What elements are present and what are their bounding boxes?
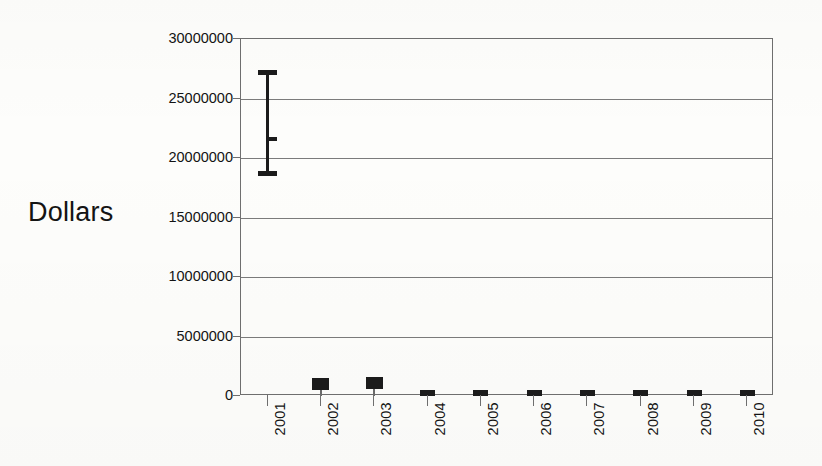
x-axis-tick-label: 2009 — [699, 402, 714, 435]
y-axis-tick-label: 30000000 — [83, 31, 233, 46]
y-axis-tick-label: 5000000 — [83, 328, 233, 343]
x-axis-tick-label: 2005 — [486, 402, 501, 435]
y-axis-tick-mark — [233, 217, 240, 218]
y-axis-tick-label: 10000000 — [83, 269, 233, 284]
y-axis-tick-mark — [233, 98, 240, 99]
x-axis-tick-label: 2007 — [592, 402, 607, 435]
x-axis-tick-label: 2003 — [379, 402, 394, 435]
y-axis-tick-label: 25000000 — [83, 90, 233, 105]
gridline — [241, 277, 772, 278]
bar-mark — [312, 378, 329, 390]
error-bar-cap-top — [258, 70, 277, 75]
gridline — [241, 337, 772, 338]
gridline — [241, 99, 772, 100]
chart-figure: Dollars 05000000100000001500000020000000… — [0, 0, 822, 466]
y-axis-tick-mark — [233, 395, 240, 396]
x-axis-tick-label: 2001 — [273, 402, 288, 435]
y-axis-tick-mark — [233, 157, 240, 158]
y-axis-tick-mark — [233, 276, 240, 277]
x-axis-tick-labels: 2001200220032004200520062007200820092010 — [240, 402, 773, 462]
y-axis-tick-label: 20000000 — [83, 150, 233, 165]
y-axis-tick-label: 15000000 — [83, 209, 233, 224]
error-bar-center-marker — [266, 137, 277, 141]
plot-area — [240, 38, 773, 395]
y-axis-tick-mark — [233, 38, 240, 39]
gridline — [241, 218, 772, 219]
x-axis-tick-label: 2006 — [539, 402, 554, 435]
bar-mark — [366, 377, 383, 389]
x-axis-tick-label: 2010 — [752, 402, 767, 435]
x-axis-tick-label: 2004 — [433, 402, 448, 435]
error-bar-cap-bottom — [258, 171, 277, 176]
gridline — [241, 158, 772, 159]
x-axis-tick-label: 2008 — [646, 402, 661, 435]
x-axis-tick-label: 2002 — [326, 402, 341, 435]
error-bar-line — [266, 72, 269, 173]
y-axis-tick-label: 0 — [83, 388, 233, 403]
y-axis-tick-mark — [233, 336, 240, 337]
y-axis-tick-labels: 0500000010000000150000002000000025000000… — [78, 38, 233, 395]
